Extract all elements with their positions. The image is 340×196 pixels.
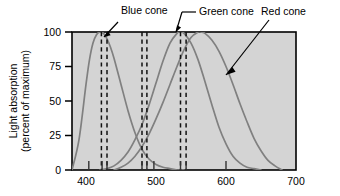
plot-background <box>72 32 296 170</box>
annotation-label-blue-cone: Blue cone <box>121 4 168 16</box>
x-tick-label-500: 500 <box>147 175 165 187</box>
x-tick-label-400: 400 <box>77 175 95 187</box>
annotation-label-green-cone: Green cone <box>199 5 254 17</box>
y-tick-label-0: 0 <box>55 164 61 176</box>
y-tick-label-100: 100 <box>43 26 61 38</box>
y-axis-title-line2: (percent of maximum) <box>19 50 31 152</box>
annotation-label-group: Blue coneGreen coneRed cone <box>121 4 306 17</box>
y-axis-title: Light absorption (percent of maximum) <box>7 50 31 152</box>
x-axis: 400500600700 <box>77 175 305 187</box>
figure-container: 0255075100 400500600700 Light absorption… <box>0 0 340 196</box>
y-axis: 0255075100 <box>43 26 72 176</box>
y-axis-title-line1: Light absorption <box>7 63 19 138</box>
annotation-label-red-cone: Red cone <box>261 5 306 17</box>
x-tick-label-700: 700 <box>287 175 305 187</box>
cone-absorption-chart: 0255075100 400500600700 Light absorption… <box>0 0 340 196</box>
y-tick-label-75: 75 <box>49 60 61 72</box>
y-tick-label-50: 50 <box>49 95 61 107</box>
y-tick-label-25: 25 <box>49 129 61 141</box>
green-cone-arrowhead <box>176 25 181 32</box>
x-tick-label-600: 600 <box>217 175 235 187</box>
